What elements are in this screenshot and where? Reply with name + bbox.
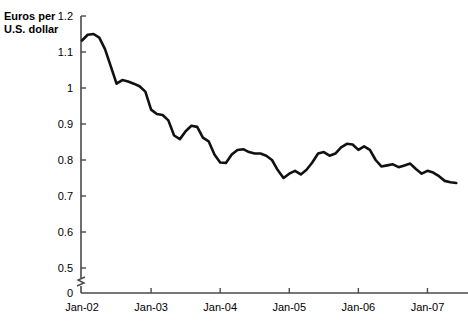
line-chart-plot: 00.50.60.70.80.911.11.2Jan-02Jan-03Jan-0… xyxy=(0,0,468,331)
data-series-line xyxy=(82,34,456,183)
y-tick-label: 1.1 xyxy=(58,46,73,58)
y-tick-label: 1 xyxy=(67,82,73,94)
x-tick-label: Jan-06 xyxy=(342,301,376,313)
y-tick-label: 0.6 xyxy=(58,226,73,238)
y-tick-label: 0 xyxy=(67,287,73,299)
y-tick-label: 0.8 xyxy=(58,154,73,166)
chart-container: Euros per U.S. dollar 00.50.60.70.80.911… xyxy=(0,0,468,331)
y-tick-label: 0.7 xyxy=(58,190,73,202)
y-tick-label: 0.9 xyxy=(58,118,73,130)
x-tick-label: Jan-04 xyxy=(203,301,237,313)
x-tick-label: Jan-05 xyxy=(272,301,306,313)
x-tick-label: Jan-02 xyxy=(65,301,99,313)
x-tick-label: Jan-07 xyxy=(411,301,445,313)
axis-break-mark xyxy=(77,277,85,286)
y-tick-label: 0.5 xyxy=(58,262,73,274)
x-tick-label: Jan-03 xyxy=(134,301,168,313)
y-axis-title: Euros per U.S. dollar xyxy=(4,10,66,36)
